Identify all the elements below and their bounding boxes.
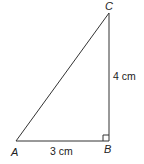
triangle-diagram: C A B 3 cm 4 cm	[0, 0, 144, 164]
triangle-abc	[16, 13, 109, 141]
right-angle-marker	[103, 135, 109, 141]
side-label-ab: 3 cm	[50, 145, 73, 157]
vertex-label-a: A	[10, 146, 18, 158]
vertex-label-b: B	[104, 143, 111, 155]
vertex-label-c: C	[105, 0, 113, 12]
side-label-bc: 4 cm	[113, 70, 136, 82]
